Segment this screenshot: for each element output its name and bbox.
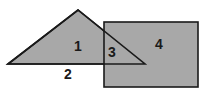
figure-canvas: Overlapping triangle and rectangle regio… [0,0,207,94]
region-label-4: 4 [155,36,163,52]
region-label-2: 2 [64,66,72,82]
geometry-figure: Overlapping triangle and rectangle regio… [0,0,207,94]
region-label-1: 1 [74,38,82,54]
region-label-3: 3 [108,44,116,60]
rectangle-shape [104,22,198,87]
